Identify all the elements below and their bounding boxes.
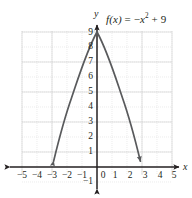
y-axis-name-label: y	[94, 9, 98, 19]
x-tick-label: 2	[128, 171, 133, 181]
y-tick-label: 3	[80, 117, 93, 127]
parabola-figure: f(x) = −x2 + 9 x y −5 −4 −3 −2 −1 0 1 2 …	[0, 0, 192, 198]
x-tick-label: 1	[113, 171, 118, 181]
y-tick-label: 9	[80, 28, 93, 38]
equation-arg: (x)	[109, 13, 122, 25]
x-tick-label: −4	[32, 171, 42, 181]
y-tick-label: 2	[80, 132, 93, 142]
x-tick-label: 3	[143, 171, 148, 181]
x-tick-label: −2	[62, 171, 72, 181]
x-axis-name-label: x	[183, 162, 187, 172]
x-tick-label: −5	[17, 171, 27, 181]
equation-plus: +	[149, 13, 161, 25]
equation-equals: =	[122, 13, 134, 25]
y-tick-label: 5	[80, 87, 93, 97]
y-tick-label: 4	[80, 102, 93, 112]
x-tick-label: 0	[101, 171, 106, 181]
y-tick-label: 8	[80, 42, 93, 52]
x-tick-label: 4	[158, 171, 163, 181]
y-tick-label: 7	[80, 57, 93, 67]
x-tick-label: −3	[47, 171, 57, 181]
graph-canvas	[0, 0, 192, 198]
y-tick-label: −1	[80, 177, 93, 187]
equation-constant: 9	[161, 13, 167, 25]
x-tick-label: 5	[172, 171, 177, 181]
y-tick-label: 1	[80, 147, 93, 157]
y-tick-label: 6	[80, 72, 93, 82]
function-equation-label: f(x) = −x2 + 9	[106, 13, 166, 25]
